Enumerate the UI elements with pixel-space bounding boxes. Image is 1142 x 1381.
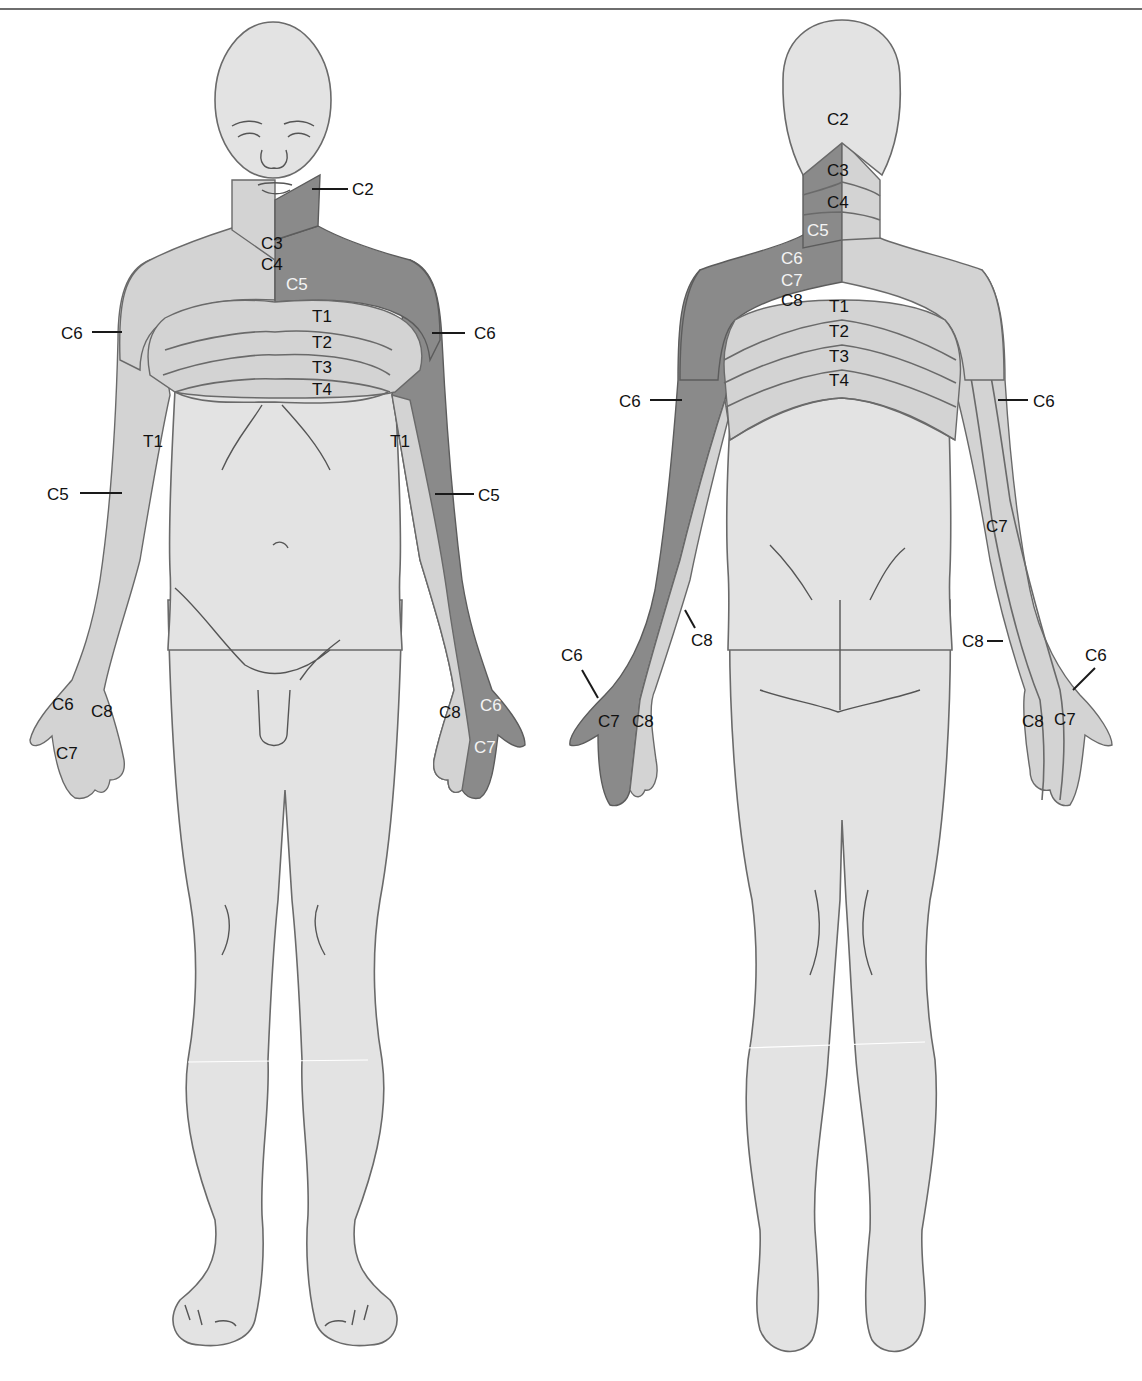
post-label-hand-right-c7: C7 <box>1054 711 1076 728</box>
leader-post-c6-hand-right <box>1073 668 1095 690</box>
ant-label-t1-chest: T1 <box>312 308 332 325</box>
ant-label-c6-left: C6 <box>61 325 83 342</box>
anterior-figure <box>30 22 525 1346</box>
ant-label-hand-left-c6: C6 <box>52 696 74 713</box>
ant-label-hand-left-c7: C7 <box>56 745 78 762</box>
post-label-c8-forearm-right: C8 <box>962 633 984 650</box>
ant-label-t4: T4 <box>312 381 332 398</box>
post-label-hand-left-c8: C8 <box>632 713 654 730</box>
post-label-c5: C5 <box>807 222 829 239</box>
leader-post-c8-left <box>685 610 695 628</box>
post-label-c2: C2 <box>827 111 849 128</box>
post-label-t3: T3 <box>829 348 849 365</box>
post-label-t1: T1 <box>829 298 849 315</box>
post-label-c7-arm-right: C7 <box>986 518 1008 535</box>
post-label-t4: T4 <box>829 372 849 389</box>
post-label-c6-arm-left: C6 <box>619 393 641 410</box>
post-label-hand-left-c7: C7 <box>598 713 620 730</box>
ant-label-c5-arm-left: C5 <box>47 486 69 503</box>
post-label-c7: C7 <box>781 272 803 289</box>
ant-label-hand-right-c7: C7 <box>474 739 496 756</box>
post-label-hand-right-c8: C8 <box>1022 713 1044 730</box>
dermatome-illustration <box>0 0 1142 1381</box>
post-label-c8-forearm-left: C8 <box>691 632 713 649</box>
anterior-head <box>215 22 331 178</box>
post-label-t2: T2 <box>829 323 849 340</box>
posterior-figure <box>570 20 1112 1351</box>
ant-label-c6-right: C6 <box>474 325 496 342</box>
ant-label-c5-shoulder: C5 <box>286 276 308 293</box>
posterior-legs <box>730 600 951 1351</box>
post-label-c6: C6 <box>781 250 803 267</box>
post-label-c6-arm-right: C6 <box>1033 393 1055 410</box>
anterior-torso <box>168 390 402 650</box>
ant-label-t3: T3 <box>312 359 332 376</box>
post-label-hand-right-c6: C6 <box>1085 647 1107 664</box>
post-label-c8: C8 <box>781 292 803 309</box>
ant-label-t1-arm-left: T1 <box>143 433 163 450</box>
post-label-c4: C4 <box>827 194 849 211</box>
ant-label-hand-right-c8: C8 <box>439 704 461 721</box>
ant-label-c5-arm-right: C5 <box>478 487 500 504</box>
anterior-legs <box>168 600 402 1346</box>
ant-label-t2: T2 <box>312 334 332 351</box>
ant-label-c4: C4 <box>261 256 283 273</box>
leader-post-c6-hand-left <box>582 670 598 698</box>
post-label-hand-left-c6: C6 <box>561 647 583 664</box>
ant-label-hand-left-c8: C8 <box>91 703 113 720</box>
anterior-chest-t1 <box>148 300 422 398</box>
post-label-c3: C3 <box>827 162 849 179</box>
ant-label-c2: C2 <box>352 181 374 198</box>
ant-label-t1-arm-right: T1 <box>390 433 410 450</box>
ant-label-hand-right-c6: C6 <box>480 697 502 714</box>
ant-label-c3: C3 <box>261 235 283 252</box>
